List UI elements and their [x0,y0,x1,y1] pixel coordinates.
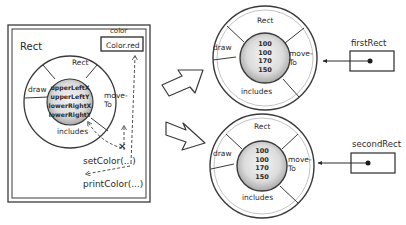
ring-label-right-1: move- [289,49,313,58]
core-field: lowerRightY [49,111,92,119]
ring-label-bottom: includes [242,193,273,202]
setcolor-to-color-arrow [131,56,135,163]
color-field-label: color [110,27,127,35]
ring-label-bottom: includes [57,127,88,136]
ring-label-left: draw [28,85,47,94]
ring-label-right-1: move- [104,91,128,100]
instantiate-arrow-lower [166,122,205,150]
ring-label-right-2: To [287,164,296,173]
core-field: upperLeftX [50,84,89,92]
core-value: 100 [258,40,272,48]
core-value: 170 [255,164,269,172]
ring-label-left: draw [213,149,232,158]
core-field: upperLeftY [51,93,90,101]
method-setcolor: setColor(...) [83,156,136,166]
core-value: 100 [255,147,269,155]
method-printcolor: printColor(...) [83,179,143,189]
ring-label-right-2: To [103,100,112,109]
ring-label-top: Rect [254,122,271,131]
class-panel: Rect color Color.red Rect draw move- To … [8,25,150,202]
core-value: 150 [258,66,272,74]
instance-second: Rect draw move- To includes 100 100 170 … [210,114,402,218]
blocked-access-cross: ✕ [118,141,126,152]
reference-label: secondRect [352,139,402,149]
class-object: Rect draw move- To includes upperLeftX u… [24,56,128,148]
instance-first: Rect draw move- To includes 100 100 170 … [213,6,394,110]
ring-label-left: draw [213,43,232,52]
reference-label: firstRect [351,38,387,48]
core-value: 170 [258,57,272,65]
ring-label-top: Rect [257,16,274,25]
core-value: 100 [258,49,272,57]
ring-label-right-1: move- [288,155,312,164]
color-field-value: Color.red [106,41,140,50]
core-value: 100 [255,156,269,164]
core-value: 150 [255,173,269,181]
printcolor-arrow [86,166,130,174]
ring-label-top: Rect [72,58,89,67]
core-field: lowerRightX [49,102,92,110]
ring-label-right-2: To [288,58,297,67]
ring-label-bottom: includes [241,87,272,96]
class-label: Rect [20,41,42,52]
instantiate-arrow-upper [162,70,203,96]
